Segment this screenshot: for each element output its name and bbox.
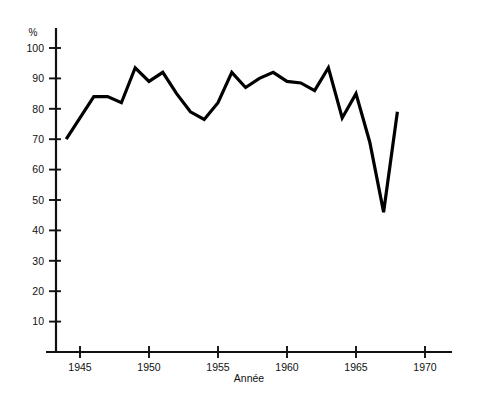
- x-tick-label: 1960: [275, 361, 299, 373]
- x-tick-label: 1965: [344, 361, 368, 373]
- x-axis-ticks: 194519501955196019651970: [68, 346, 437, 373]
- x-tick-label: 1970: [413, 361, 437, 373]
- y-tick-label: 30: [32, 255, 44, 267]
- y-tick-label: 10: [32, 315, 44, 327]
- y-tick-label: 70: [32, 133, 44, 145]
- x-tick-label: 1950: [137, 361, 161, 373]
- y-axis-unit-label: %: [29, 27, 38, 38]
- y-tick-label: 60: [32, 163, 44, 175]
- chart-container: 102030405060708090100 194519501955196019…: [0, 0, 479, 401]
- x-tick-label: 1955: [206, 361, 230, 373]
- y-tick-label: 80: [32, 103, 44, 115]
- y-tick-label: 40: [32, 224, 44, 236]
- x-axis-title: Année: [234, 372, 265, 384]
- y-tick-label: 50: [32, 194, 44, 206]
- y-tick-label: 20: [32, 285, 44, 297]
- x-tick-label: 1945: [68, 361, 92, 373]
- data-series-line: [66, 68, 397, 212]
- y-tick-label: 100: [26, 42, 44, 54]
- y-tick-label: 90: [32, 72, 44, 84]
- line-chart: 102030405060708090100 194519501955196019…: [0, 0, 479, 401]
